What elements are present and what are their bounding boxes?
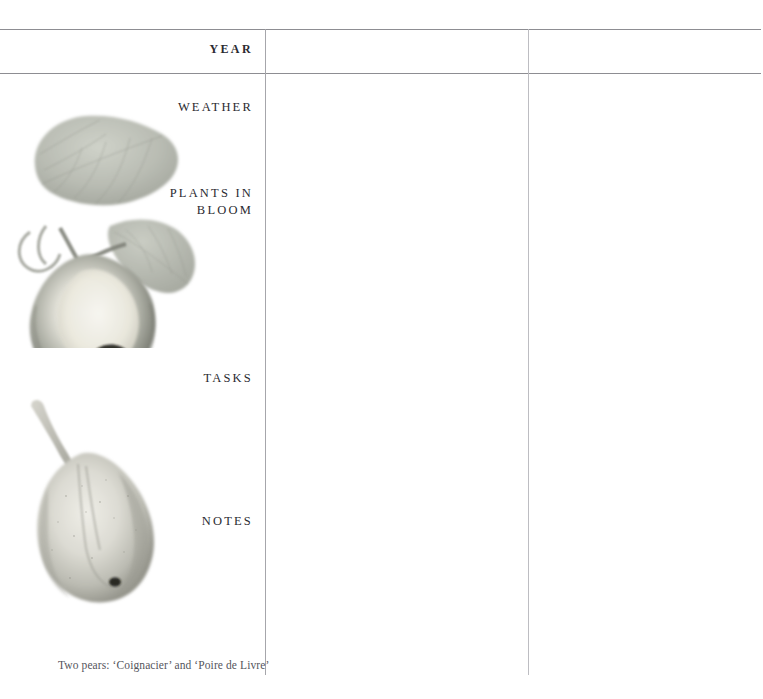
section-label-plants-in-bloom: PLANTS IN BLOOM xyxy=(170,185,253,219)
leaf-upper xyxy=(35,116,178,206)
leaf-veins-upper xyxy=(40,120,162,203)
year-label: YEAR xyxy=(209,41,253,58)
twig-loop xyxy=(19,226,60,271)
illustration-caption: Two pears: ‘Coignacier’ and ‘Poire de Li… xyxy=(58,659,269,671)
leaf-veins-lower xyxy=(114,226,188,284)
pear-long-stem-illustration xyxy=(14,392,164,630)
pear-long-stem-svg xyxy=(14,392,164,630)
pear-calyx-lower xyxy=(109,578,121,587)
pear-calyx xyxy=(94,345,131,348)
pear-body-lower xyxy=(37,453,154,603)
section-label-weather: WEATHER xyxy=(178,99,253,116)
pear-with-leaves-svg xyxy=(2,108,224,348)
leaf-lower xyxy=(108,219,195,293)
column-divider-second xyxy=(528,29,529,675)
column-divider-first xyxy=(265,29,266,675)
header-rule-top xyxy=(0,29,761,30)
pear-body xyxy=(30,254,156,348)
section-label-notes: NOTES xyxy=(202,513,253,530)
section-label-tasks: TASKS xyxy=(203,370,253,387)
journal-page: YEAR WEATHER PLANTS IN BLOOM TASKS NOTES xyxy=(0,0,763,699)
pear-stem xyxy=(60,228,126,264)
header-rule-bottom xyxy=(0,73,761,74)
pear-with-leaves-illustration xyxy=(2,108,224,348)
pear-edge-shading xyxy=(34,304,153,348)
pear-crease xyxy=(78,464,112,588)
pear-speckles xyxy=(51,479,137,579)
pear-shading-left xyxy=(40,488,70,598)
pear-long-stem xyxy=(31,400,78,472)
pear-shading-right xyxy=(118,472,148,594)
pear-inner-highlight xyxy=(58,269,139,348)
